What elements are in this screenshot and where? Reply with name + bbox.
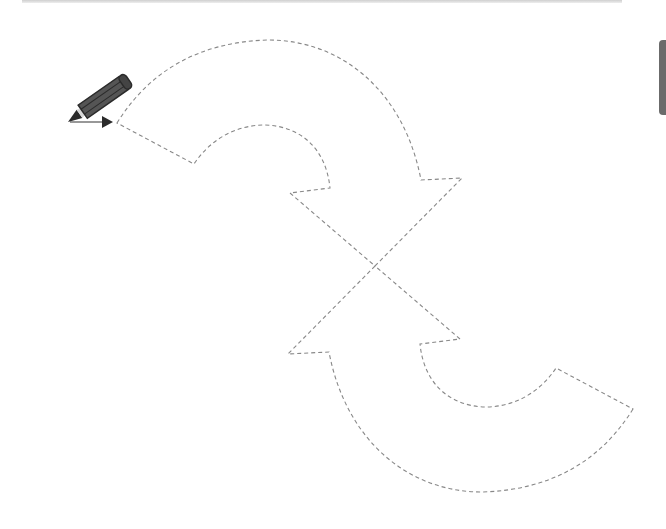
top-curved-arrow-outline <box>117 40 462 266</box>
pencil-icon <box>63 73 133 129</box>
bottom-curved-arrow-outline <box>288 266 633 492</box>
tracing-canvas <box>0 0 666 529</box>
